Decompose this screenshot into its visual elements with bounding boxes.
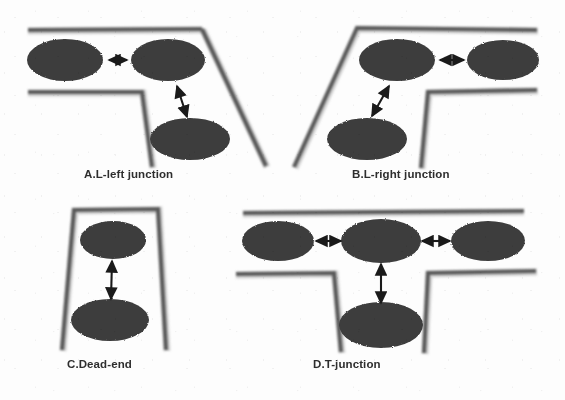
node-a-left <box>27 39 103 81</box>
caption-panel-c: C.Dead-end <box>67 358 132 370</box>
node-b-right <box>467 40 539 80</box>
node-d-bottom <box>339 302 423 348</box>
node-b-center <box>359 39 435 81</box>
node-c-top <box>80 221 146 259</box>
node-c-bottom <box>71 299 149 341</box>
node-a-right <box>131 39 205 81</box>
node-d-center <box>341 219 421 263</box>
node-a-bottom <box>150 118 230 160</box>
wall-d-top-core <box>243 211 524 213</box>
caption-panel-d: D.T-junction <box>313 358 381 370</box>
wall-a-outer-top-core <box>28 29 202 30</box>
node-d-left <box>242 221 314 261</box>
arrow-c-vertical <box>111 261 112 299</box>
caption-panel-a: A.L-left junction <box>84 168 173 180</box>
caption-panel-b: B.L-right junction <box>352 168 450 180</box>
junction-diagram-figure <box>0 0 565 400</box>
node-b-bottom <box>327 118 407 160</box>
node-d-right <box>451 221 525 261</box>
panel-c-arrows <box>111 261 112 299</box>
